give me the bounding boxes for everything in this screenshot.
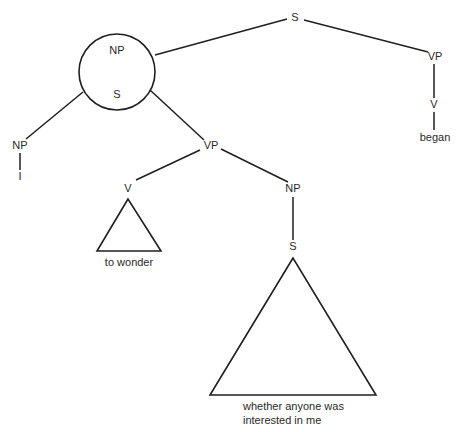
node-obj-s: S bbox=[289, 240, 296, 252]
node-circle-np: NP bbox=[109, 44, 124, 56]
node-root-s: S bbox=[291, 11, 298, 23]
edge-inner-vp-to-obj-np bbox=[221, 149, 288, 182]
edge-root-s-to-top-vp bbox=[304, 20, 428, 52]
node-circle-s: S bbox=[113, 88, 120, 100]
node-subj-np: NP bbox=[12, 139, 27, 151]
edge-inner-vp-to-v bbox=[136, 150, 200, 180]
syntax-tree-diagram: S NP S VP V began NP I VP V to wonder NP… bbox=[0, 0, 462, 432]
node-inner-v: V bbox=[124, 182, 132, 194]
phrase-to-wonder: to wonder bbox=[105, 256, 154, 268]
edge-circle-to-subj-np bbox=[26, 92, 83, 139]
triangle-whether-clause bbox=[210, 258, 376, 395]
node-inner-vp: VP bbox=[204, 139, 219, 151]
word-i: I bbox=[18, 170, 21, 182]
triangle-to-wonder bbox=[97, 199, 161, 251]
phrase-whether-line2: interested in me bbox=[243, 414, 321, 426]
edge-circle-to-inner-vp bbox=[150, 90, 204, 140]
node-top-vp: VP bbox=[428, 50, 443, 62]
tree-edges bbox=[20, 19, 434, 240]
node-top-v: V bbox=[430, 98, 438, 110]
edge-root-s-to-circle bbox=[155, 19, 287, 55]
node-obj-np: NP bbox=[285, 182, 300, 194]
phrase-whether-line1: whether anyone was bbox=[242, 400, 344, 412]
word-began: began bbox=[420, 131, 451, 143]
